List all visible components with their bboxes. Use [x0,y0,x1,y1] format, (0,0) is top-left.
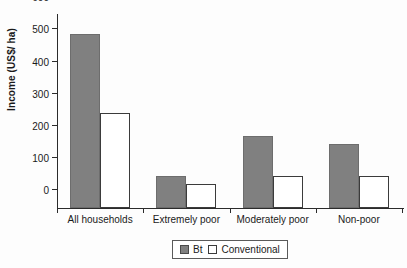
y-tick-label: 0 [25,185,49,196]
bar-bt-moderately-poor [243,136,273,208]
x-tick-mark [402,208,403,213]
y-tick-label: 300 [25,89,49,100]
plot-area: 0100200300400500600 [57,15,402,208]
bar-bt-non-poor [329,144,359,208]
bar-conventional-all-households [100,113,130,208]
chart-legend: BtConventional [172,240,288,259]
y-tick-mark [52,157,57,158]
y-tick: 0 [25,181,57,199]
x-axis-category-label: Extremely poor [153,214,220,225]
y-tick: 400 [25,52,57,70]
y-axis-title: Income (US$/ ha) [6,15,17,125]
y-tick-mark [52,61,57,62]
legend-entry-conventional[interactable]: Conventional [208,244,279,255]
legend-label: Conventional [221,244,279,255]
y-tick-label: 500 [25,24,49,35]
bar-conventional-non-poor [359,176,389,208]
legend-swatch-bt [180,245,189,254]
y-tick: 300 [25,85,57,103]
y-tick: 500 [25,20,57,38]
y-tick-mark [52,189,57,190]
legend-label: Bt [193,244,202,255]
bar-bt-all-households [70,34,100,208]
y-tick-label: 400 [25,57,49,68]
y-tick: 100 [25,149,57,167]
y-tick-mark [52,125,57,126]
legend-entry-bt[interactable]: Bt [180,244,202,255]
y-tick-mark [52,93,57,94]
bar-bt-extremely-poor [156,176,186,208]
y-tick-label: 100 [25,153,49,164]
y-tick: 200 [25,117,57,135]
x-axis-category-label: All households [68,214,133,225]
x-axis-line [57,208,404,209]
y-tick-label: 600 [25,0,49,3]
y-tick: 600 [25,0,57,6]
bar-conventional-moderately-poor [273,176,303,208]
x-axis-category-label: Moderately poor [236,214,308,225]
legend-swatch-conventional [208,245,217,254]
bar-conventional-extremely-poor [186,184,216,208]
x-tick-mark [230,208,231,213]
x-tick-mark [143,208,144,213]
bar-chart-figure: Income (US$/ ha) 0100200300400500600 All… [0,0,407,268]
x-axis-category-label: Non-poor [338,214,380,225]
x-tick-mark [57,208,58,213]
y-tick-label: 200 [25,121,49,132]
x-tick-mark [316,208,317,213]
y-tick-mark [52,28,57,29]
